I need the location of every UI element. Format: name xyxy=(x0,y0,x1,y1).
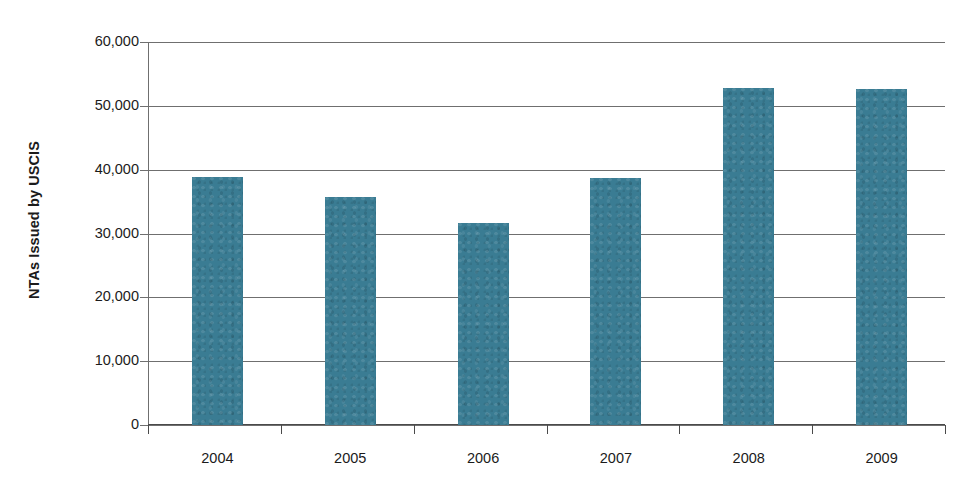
gridline xyxy=(148,106,945,107)
x-axis-tick xyxy=(148,425,149,434)
bar-2005 xyxy=(325,197,376,425)
y-axis-tick xyxy=(140,106,148,107)
gridline xyxy=(148,234,945,235)
x-axis-tick xyxy=(679,425,680,434)
gridline xyxy=(148,42,945,43)
x-axis-label-2004: 2004 xyxy=(172,450,262,466)
y-axis-tick-label: 20,000 xyxy=(95,288,139,304)
gridline xyxy=(148,297,945,298)
y-axis-tick-label: 50,000 xyxy=(95,97,139,113)
x-axis-label-2005: 2005 xyxy=(305,450,395,466)
y-axis-tick-label: 30,000 xyxy=(95,225,139,241)
bar-2008 xyxy=(723,88,774,425)
x-axis-label-2006: 2006 xyxy=(438,450,528,466)
y-axis-tick-label: 40,000 xyxy=(95,161,139,177)
y-axis-tick-label: 10,000 xyxy=(95,352,139,368)
plot-area: 010,00020,00030,00040,00050,00060,000 xyxy=(148,42,945,425)
y-axis-tick-label: 60,000 xyxy=(95,33,139,49)
y-axis-tick xyxy=(140,425,148,426)
y-axis-title-text: NTAs Issued by USCIS xyxy=(26,141,42,299)
y-axis-tick xyxy=(140,297,148,298)
y-axis-tick xyxy=(140,234,148,235)
bar-chart-figure: NTAs Issued by USCIS 010,00020,00030,000… xyxy=(0,0,975,479)
bar-2007 xyxy=(590,178,641,425)
x-axis-tick xyxy=(414,425,415,434)
y-axis-title: NTAs Issued by USCIS xyxy=(22,0,46,440)
x-axis-tick xyxy=(281,425,282,434)
x-axis-label-2007: 2007 xyxy=(571,450,661,466)
x-axis-label-2008: 2008 xyxy=(704,450,794,466)
gridline xyxy=(148,361,945,362)
bar-2009 xyxy=(856,89,907,425)
x-axis-tick xyxy=(547,425,548,434)
x-axis-tick xyxy=(812,425,813,434)
y-axis-tick xyxy=(140,170,148,171)
x-axis-label-2009: 2009 xyxy=(837,450,927,466)
y-axis-tick xyxy=(140,42,148,43)
y-axis-tick-label: 0 xyxy=(131,416,139,432)
gridline xyxy=(148,170,945,171)
y-axis-tick xyxy=(140,361,148,362)
x-axis-tick-end xyxy=(945,425,946,434)
bar-2006 xyxy=(458,223,509,425)
bar-2004 xyxy=(192,177,243,425)
